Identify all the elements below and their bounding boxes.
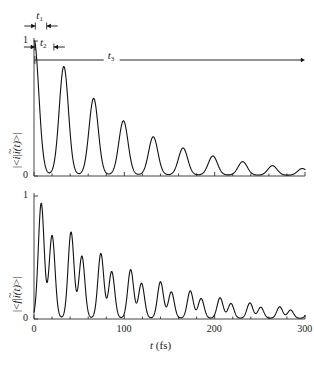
bottom-panel [34, 193, 305, 319]
x-tick-label-0: 0 [31, 324, 36, 334]
top-panel [34, 38, 305, 176]
x-axis-title: t (fs) [150, 340, 171, 351]
y-tick-label-0-top-panel-group: 0 [23, 170, 28, 180]
x-tick-label-300: 300 [297, 324, 312, 334]
timescale-annotations [24, 23, 305, 65]
y-tick-label-1-top-panel-group: 1 [23, 35, 28, 45]
y-axis-label-top: |<i|~i(t)>| [10, 132, 22, 168]
y-axis-label-bottom: |<f|~i(t)>| [10, 276, 22, 312]
y-tick-label-0-bottom-panel-group: 0 [23, 313, 28, 323]
figure-canvas [0, 0, 314, 366]
annotation-label-t2: t2 [40, 37, 47, 48]
x-tick-label-100: 100 [117, 324, 132, 334]
y-tick-label-1-bottom-panel-group: 1 [23, 190, 28, 200]
annotation-label-t3: t3 [108, 50, 115, 61]
x-tick-label-200: 200 [207, 324, 222, 334]
annotation-label-t1: t1 [36, 10, 43, 21]
